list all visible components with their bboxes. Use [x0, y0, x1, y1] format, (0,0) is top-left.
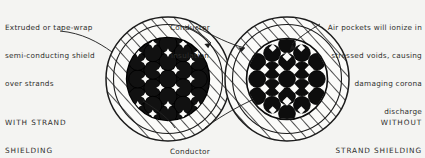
caption-line: semi-conducting shield	[5, 51, 95, 60]
caption-line: Conductor	[146, 147, 234, 156]
caption-line: damaging corona	[328, 79, 422, 88]
caption-line: stressed voids, causing	[328, 51, 422, 60]
caption-heading-line: WITHOUT	[329, 118, 422, 127]
caption-heading-line: STRAND SHIELDING	[329, 146, 422, 155]
caption-without-strand-shielding: WITHOUT STRAND SHIELDING air pockets can…	[329, 99, 422, 158]
caption-line: Air pockets will ionize in	[328, 23, 422, 32]
caption-conductor-strands: Conductor strands	[146, 128, 234, 158]
caption-conductor-insulation: Conductor insulation	[144, 4, 236, 79]
caption-line: insulation	[144, 51, 236, 60]
caption-heading-line: SHIELDING	[5, 146, 98, 155]
caption-line: over strands	[5, 79, 95, 88]
caption-line: Extruded or tape-wrap	[5, 23, 95, 32]
caption-with-strand-shielding: WITH STRAND SHIELDING airpockets are exc…	[5, 99, 98, 158]
caption-semiconducting-shield: Extruded or tape-wrap semi-conducting sh…	[5, 4, 95, 107]
caption-line: Conductor	[144, 23, 236, 32]
caption-heading-line: WITH STRAND	[5, 118, 98, 127]
unshielded-conductor-core	[247, 36, 328, 122]
diagram-canvas: Extruded or tape-wrap semi-conducting sh…	[0, 0, 425, 158]
